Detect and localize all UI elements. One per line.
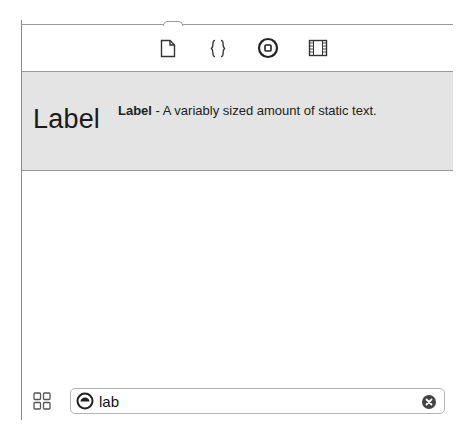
clear-icon[interactable]: [422, 395, 436, 409]
file-template-icon[interactable]: [157, 37, 179, 59]
item-name: Label: [118, 103, 152, 118]
filter-icon[interactable]: [76, 392, 94, 410]
media-library-icon[interactable]: [307, 37, 329, 59]
grid-icon[interactable]: [33, 392, 51, 410]
library-tab-bar: [22, 25, 453, 71]
library-filter-bar: [22, 385, 453, 415]
code-snippet-icon[interactable]: [207, 37, 229, 59]
search-input[interactable]: [99, 391, 399, 411]
object-library-icon[interactable]: [257, 37, 279, 59]
library-search-field[interactable]: [70, 388, 445, 414]
library-item-label[interactable]: Label Label - A variably sized amount of…: [22, 71, 453, 171]
item-description-text: - A variably sized amount of static text…: [152, 103, 377, 118]
item-description: Label - A variably sized amount of stati…: [118, 103, 438, 118]
item-title: Label: [33, 104, 100, 135]
